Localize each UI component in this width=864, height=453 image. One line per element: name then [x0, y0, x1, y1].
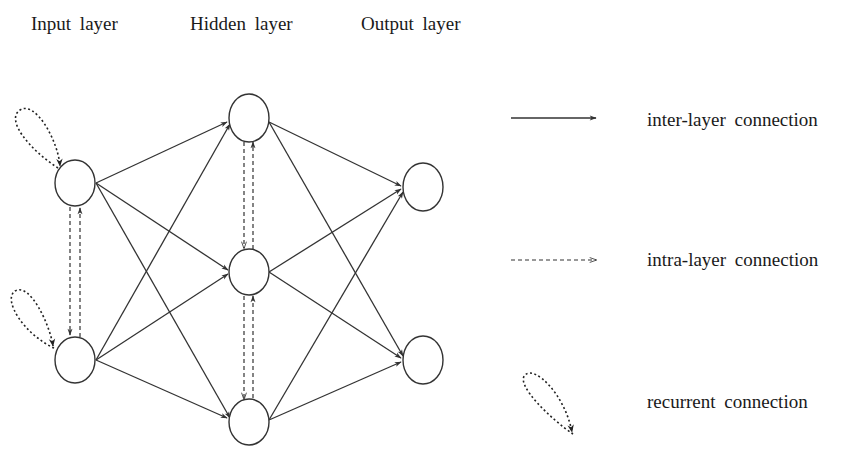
recurrent-i2 [11, 290, 54, 348]
hidden-node-2 [229, 249, 269, 295]
neural-network-diagram: Input layer Hidden layer Output layer in… [0, 0, 864, 453]
legend-recurrent-loop-icon [523, 373, 573, 434]
edge-h3-o1 [269, 192, 403, 420]
edge-i1-h3 [96, 183, 230, 418]
input-node-1 [55, 160, 95, 206]
intra-layer-edges-input [70, 207, 80, 337]
nodes [55, 94, 443, 445]
edge-h3-o2 [269, 362, 401, 420]
edge-i1-h2 [96, 183, 228, 270]
recurrent-i1 [15, 108, 60, 168]
hidden-node-1 [229, 94, 269, 142]
output-node-2 [403, 336, 443, 384]
edge-i2-h1 [96, 124, 230, 360]
output-node-1 [403, 163, 443, 211]
legend-glyphs [511, 118, 596, 434]
edge-i2-h3 [96, 360, 227, 418]
input-node-2 [55, 337, 95, 383]
edge-h2-o2 [269, 272, 401, 358]
inter-layer-edges-hidden-output [269, 122, 403, 420]
edge-i1-h1 [96, 122, 227, 183]
edge-h1-o1 [269, 122, 401, 186]
inter-layer-edges-input-hidden [96, 122, 230, 418]
network-graph [0, 0, 864, 453]
edge-h2-o1 [269, 189, 401, 272]
edge-i2-h2 [96, 274, 228, 360]
recurrent-edges [11, 108, 60, 348]
hidden-node-3 [229, 399, 269, 445]
edge-h1-o2 [269, 122, 403, 356]
